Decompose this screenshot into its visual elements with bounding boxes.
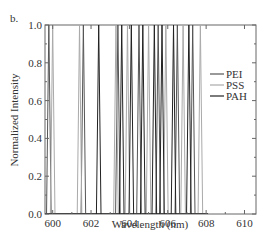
x-tick-label: 600 xyxy=(44,217,61,229)
y-tick-label: 0.6 xyxy=(28,95,42,107)
y-axis-title: Normalized Intensity xyxy=(8,73,20,167)
x-tick-label: 602 xyxy=(83,217,100,229)
x-tick-label: 610 xyxy=(236,217,253,229)
y-tick-label: 0.8 xyxy=(28,57,42,69)
chart: b. 6006026046066086100.00.20.40.60.81.0 … xyxy=(0,0,268,234)
y-tick-label: 0.2 xyxy=(28,170,42,182)
y-tick-label: 0.4 xyxy=(28,132,42,144)
y-tick-label: 0.0 xyxy=(28,208,42,220)
x-tick-label: 608 xyxy=(198,217,215,229)
x-axis-title: Wavelength (nm) xyxy=(112,218,189,231)
legend-label: PAH xyxy=(226,90,247,102)
panel-label: b. xyxy=(10,12,19,24)
y-tick-label: 1.0 xyxy=(28,19,42,31)
